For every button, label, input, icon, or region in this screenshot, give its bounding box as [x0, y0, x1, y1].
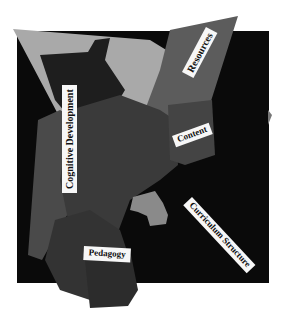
collage-shapes: [0, 0, 292, 320]
grey-wedge: [268, 110, 272, 125]
label-pedagogy: Pedagogy: [83, 246, 131, 262]
label-cognitive-development: Cognitive Development: [62, 85, 77, 193]
torn-paper-collage: Resources Content Cognitive Development …: [0, 0, 292, 320]
